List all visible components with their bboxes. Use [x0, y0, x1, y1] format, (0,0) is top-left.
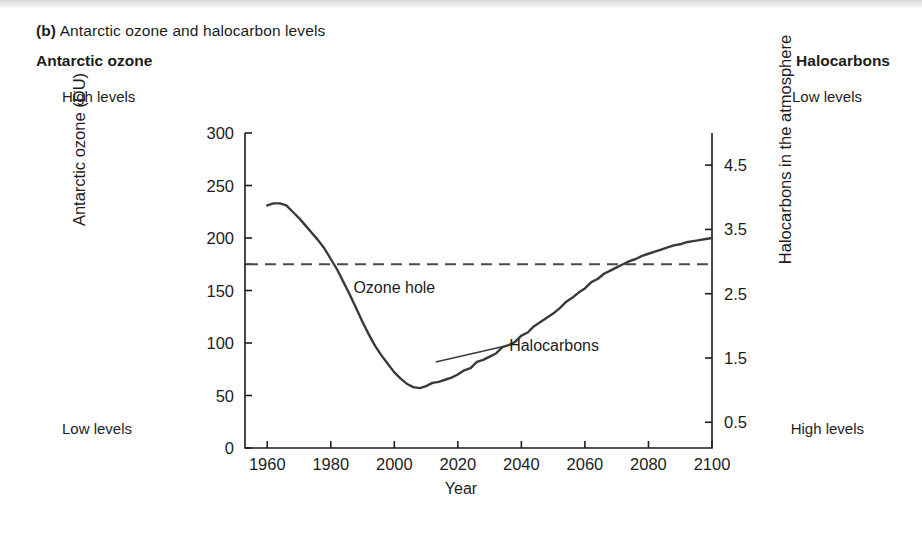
- x-tick-label: 1980: [312, 455, 349, 473]
- x-tick-label: 2000: [376, 455, 413, 473]
- y-tick-label: 0: [225, 439, 234, 457]
- x-tick-label: 2080: [630, 455, 667, 473]
- y-tick-label: 300: [206, 124, 234, 142]
- x-tick-label: 2020: [439, 455, 476, 473]
- y-tick-label: 50: [216, 387, 234, 405]
- y2-tick-label: 4.5: [724, 156, 747, 174]
- plot-frame: [245, 133, 712, 448]
- halocarbons-annotation: Halocarbons: [509, 337, 599, 354]
- ozone-line-path: [267, 203, 712, 388]
- y2-tick-label: 1.5: [724, 349, 747, 367]
- x-tick-label: 2040: [503, 455, 540, 473]
- x-tick-label: 1960: [249, 455, 286, 473]
- x-axis-ticks: 19601980200020202040206020802100: [249, 441, 730, 473]
- y2-tick-label: 3.5: [724, 220, 747, 238]
- y-tick-label: 250: [206, 177, 234, 195]
- ozone-curve: [267, 203, 712, 388]
- y2-tick-label: 0.5: [724, 413, 747, 431]
- y-tick-label: 100: [206, 334, 234, 352]
- x-tick-label: 2100: [694, 455, 731, 473]
- ozone-hole-annotation: Ozone hole: [353, 279, 435, 296]
- ozone-halocarbon-chart: 050100150200250300 0.51.52.53.54.5 19601…: [0, 0, 922, 534]
- plot-annotations: Ozone holeHalocarbons: [353, 279, 599, 362]
- y2-tick-label: 2.5: [724, 285, 747, 303]
- y-tick-label: 200: [206, 229, 234, 247]
- x-tick-label: 2060: [567, 455, 604, 473]
- y-tick-label: 150: [206, 282, 234, 300]
